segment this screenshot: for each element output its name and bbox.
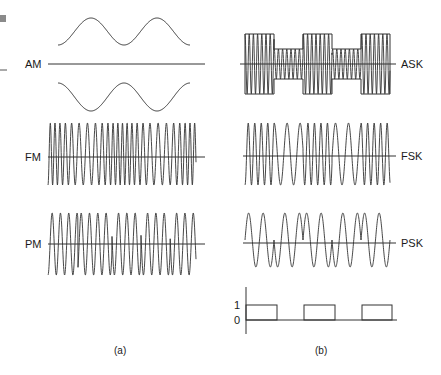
am-signal: [48, 18, 205, 111]
caption-a: (a): [114, 346, 126, 356]
am-label: AM: [25, 59, 42, 70]
fm-label: FM: [25, 152, 41, 163]
pm-label: PM: [25, 239, 42, 250]
fsk-waveform: [245, 123, 390, 185]
modulation-diagram: [0, 0, 441, 375]
psk-waveform: [245, 213, 390, 267]
bit-y-label-zero: 0: [234, 315, 240, 326]
bit-pulse: [246, 305, 277, 320]
am-upper-envelope: [58, 18, 190, 45]
ask-label: ASK: [401, 59, 423, 70]
fsk-signal: [243, 123, 396, 185]
fm-waveform: [48, 123, 196, 185]
bit-pulse: [304, 305, 335, 320]
caption-b: (b): [315, 346, 327, 356]
psk-label: PSK: [401, 238, 423, 249]
bit-stream-plot: [246, 287, 397, 334]
am-lower-envelope: [58, 83, 190, 111]
psk-signal: [243, 213, 396, 267]
bit-y-label-one: 1: [234, 300, 240, 311]
pm-signal: [48, 213, 205, 275]
fsk-label: FSK: [401, 151, 422, 162]
fm-signal: [48, 123, 205, 185]
ask-signal: [240, 34, 396, 94]
bit-pulse: [362, 305, 392, 320]
corner-mark: [0, 15, 6, 22]
